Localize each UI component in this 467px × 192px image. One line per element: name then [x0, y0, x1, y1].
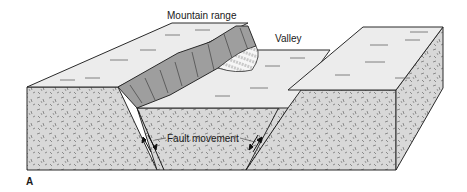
block-diagram: Mountain range Valley Fault movement A [0, 0, 467, 192]
diagram-graphic [0, 0, 467, 192]
panel-label: A [26, 176, 33, 187]
fault-movement-label: Fault movement [167, 133, 239, 144]
mountain-range-label: Mountain range [167, 10, 237, 21]
valley-label: Valley [275, 33, 302, 44]
